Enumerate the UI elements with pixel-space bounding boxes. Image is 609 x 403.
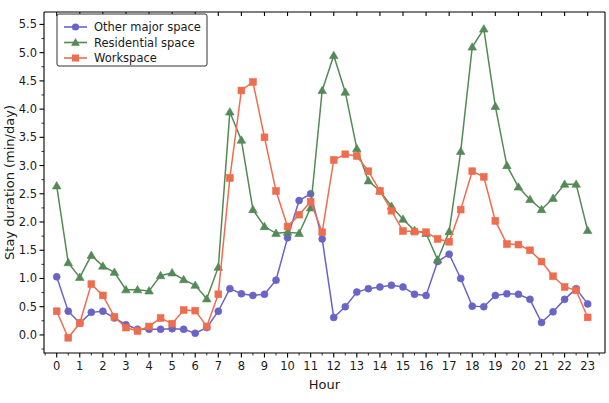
data-point-workspace	[111, 313, 118, 320]
data-point-other-major-space	[88, 309, 95, 316]
data-point-residential-space	[179, 275, 188, 282]
data-point-workspace	[434, 236, 441, 243]
x-tick-label: 14	[373, 359, 388, 373]
legend-marker-square	[72, 55, 79, 62]
series-line-workspace	[57, 82, 588, 338]
x-tick-label: 20	[511, 359, 526, 373]
y-tick-label: 2.5	[19, 187, 37, 201]
data-point-workspace	[550, 273, 557, 280]
data-point-other-major-space	[388, 282, 395, 289]
data-point-workspace	[123, 324, 130, 331]
data-point-workspace	[423, 229, 430, 236]
data-point-workspace	[226, 175, 233, 182]
data-point-workspace	[457, 206, 464, 213]
data-point-residential-space	[64, 258, 73, 265]
x-tick-label: 2	[99, 359, 106, 373]
data-point-other-major-space	[561, 296, 568, 303]
data-point-residential-space	[456, 147, 465, 154]
data-point-workspace	[88, 281, 95, 288]
data-point-residential-space	[110, 268, 119, 275]
data-point-residential-space	[341, 88, 350, 95]
data-point-other-major-space	[319, 235, 326, 242]
chart-figure: 0.00.51.01.52.02.53.03.54.04.55.05.50123…	[0, 0, 609, 403]
data-point-workspace	[157, 315, 164, 322]
x-tick-label: 13	[350, 359, 365, 373]
y-tick-label: 4.0	[19, 102, 37, 116]
data-point-workspace	[319, 229, 326, 236]
data-point-workspace	[307, 198, 314, 205]
data-point-workspace	[330, 157, 337, 164]
x-tick-label: 19	[488, 359, 503, 373]
data-point-other-major-space	[99, 308, 106, 315]
data-point-other-major-space	[365, 285, 372, 292]
data-point-workspace	[250, 79, 257, 86]
x-tick-label: 6	[192, 359, 199, 373]
data-point-residential-space	[87, 251, 96, 258]
data-point-other-major-space	[273, 277, 280, 284]
data-point-other-major-space	[353, 289, 360, 296]
data-point-workspace	[203, 323, 210, 330]
data-point-residential-space	[191, 281, 200, 288]
data-point-workspace	[146, 323, 153, 330]
data-point-other-major-space	[515, 291, 522, 298]
data-point-residential-space	[318, 86, 327, 93]
data-point-other-major-space	[296, 197, 303, 204]
data-point-residential-space	[514, 183, 523, 190]
x-tick-label: 5	[168, 359, 175, 373]
x-tick-label: 16	[419, 359, 434, 373]
data-point-workspace	[365, 168, 372, 175]
data-point-other-major-space	[584, 300, 591, 307]
y-tick-label: 0.5	[19, 300, 37, 314]
data-point-other-major-space	[457, 275, 464, 282]
data-point-workspace	[388, 207, 395, 214]
data-point-workspace	[215, 291, 222, 298]
data-point-other-major-space	[180, 326, 187, 333]
data-point-residential-space	[468, 43, 477, 50]
data-point-workspace	[353, 153, 360, 160]
data-point-other-major-space	[215, 308, 222, 315]
data-point-workspace	[180, 307, 187, 314]
data-point-other-major-space	[342, 303, 349, 310]
x-tick-label: 23	[580, 359, 595, 373]
x-tick-label: 22	[557, 359, 572, 373]
x-tick-label: 4	[145, 359, 152, 373]
data-point-workspace	[411, 228, 418, 235]
data-point-residential-space	[249, 205, 258, 212]
x-tick-label: 15	[396, 359, 411, 373]
data-point-workspace	[261, 134, 268, 141]
data-point-workspace	[400, 228, 407, 235]
y-tick-label: 5.0	[19, 46, 37, 60]
data-point-other-major-space	[330, 314, 337, 321]
x-tick-label: 9	[261, 359, 268, 373]
x-tick-label: 7	[215, 359, 222, 373]
data-point-residential-space	[52, 182, 61, 189]
y-tick-label: 1.5	[19, 243, 37, 257]
data-point-other-major-space	[423, 292, 430, 299]
x-tick-label: 8	[238, 359, 245, 373]
data-point-workspace	[284, 223, 291, 230]
data-point-workspace	[573, 287, 580, 294]
x-axis-label: Hour	[309, 377, 341, 392]
data-point-residential-space	[491, 102, 500, 109]
data-point-workspace	[76, 320, 83, 327]
data-point-residential-space	[479, 25, 488, 32]
y-tick-label: 2.0	[19, 215, 37, 229]
data-point-workspace	[53, 308, 60, 315]
legend-label-2: Workspace	[94, 51, 157, 65]
data-point-workspace	[99, 292, 106, 299]
data-point-workspace	[446, 238, 453, 245]
data-point-other-major-space	[157, 326, 164, 333]
data-point-other-major-space	[480, 303, 487, 310]
y-tick-label: 5.5	[19, 17, 37, 31]
x-tick-label: 1	[76, 359, 83, 373]
data-point-other-major-space	[261, 291, 268, 298]
data-point-workspace	[469, 168, 476, 175]
y-tick-label: 1.0	[19, 271, 37, 285]
y-tick-label: 3.0	[19, 159, 37, 173]
data-point-residential-space	[503, 161, 512, 168]
data-point-residential-space	[168, 269, 177, 276]
data-point-workspace	[503, 241, 510, 248]
line-chart: 0.00.51.01.52.02.53.03.54.04.55.05.50123…	[0, 0, 609, 403]
data-point-workspace	[515, 241, 522, 248]
data-point-other-major-space	[492, 292, 499, 299]
